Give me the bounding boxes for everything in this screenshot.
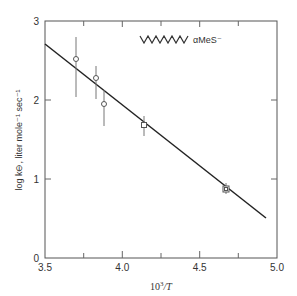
data-point xyxy=(225,188,228,191)
data-point xyxy=(142,123,147,128)
y-tick-label: 1 xyxy=(33,174,39,185)
data-point xyxy=(102,102,107,107)
fit-line xyxy=(45,44,266,218)
legend-label: αMeS⁻ xyxy=(193,35,222,45)
y-tick-label: 3 xyxy=(33,16,39,27)
error-bars xyxy=(76,37,226,194)
data-point xyxy=(74,57,79,62)
y-tick-label: 2 xyxy=(33,95,39,106)
circle-markers xyxy=(74,57,107,107)
chart: 3.5 4.0 4.5 5.0 0 1 2 3 103/T log k⊖, li… xyxy=(0,0,297,296)
x-tick-label: 4.0 xyxy=(115,262,129,273)
y-axis-title: log k⊖, liter mole⁻¹ sec⁻¹ xyxy=(14,89,24,190)
legend: αMeS⁻ xyxy=(140,35,222,45)
y-ticks xyxy=(45,100,277,179)
x-tick-label: 5.0 xyxy=(270,262,284,273)
plot-frame xyxy=(45,21,277,258)
y-tick-label: 0 xyxy=(33,253,39,264)
x-tick-label: 4.5 xyxy=(193,262,207,273)
x-ticks xyxy=(84,21,239,258)
square-markers xyxy=(142,123,230,193)
data-point xyxy=(94,76,99,81)
x-axis-title: 103/T xyxy=(150,280,173,292)
zigzag-legend-icon xyxy=(140,36,188,43)
x-tick-label: 3.5 xyxy=(38,262,52,273)
